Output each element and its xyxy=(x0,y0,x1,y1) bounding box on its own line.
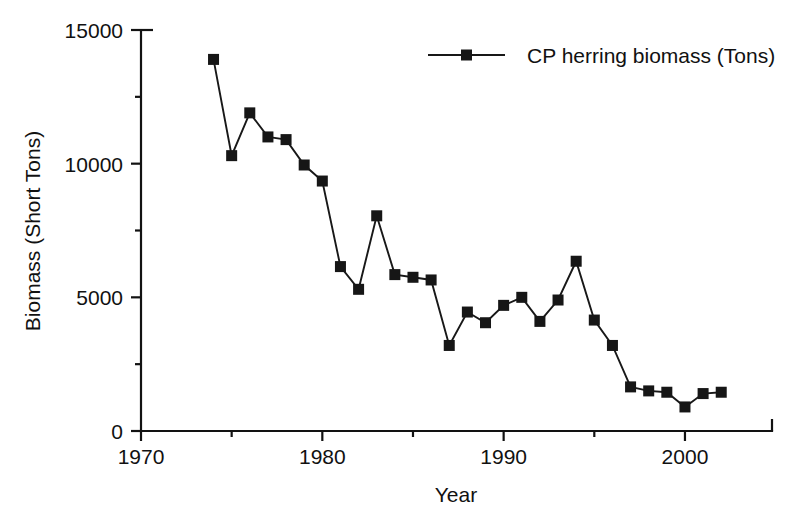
x-tick-label: 1970 xyxy=(118,445,165,468)
data-point-marker xyxy=(553,295,564,306)
data-point-marker xyxy=(317,176,328,187)
data-point-marker xyxy=(208,54,219,65)
data-point-marker xyxy=(498,300,509,311)
data-point-marker xyxy=(462,307,473,318)
legend-entry-label: CP herring biomass (Tons) xyxy=(527,44,775,67)
data-point-marker xyxy=(661,387,672,398)
legend-marker-square xyxy=(461,50,472,61)
y-tick-label: 5000 xyxy=(76,286,123,309)
y-axis-title: Biomass (Short Tons) xyxy=(21,131,44,331)
data-point-marker xyxy=(607,340,618,351)
data-point-marker xyxy=(407,272,418,283)
x-tick-label: 1980 xyxy=(299,445,346,468)
series-line-path xyxy=(214,59,722,407)
data-point-marker xyxy=(679,401,690,412)
data-point-marker xyxy=(262,131,273,142)
data-point-marker xyxy=(299,160,310,171)
data-point-marker xyxy=(444,340,455,351)
y-tick-label: 15000 xyxy=(65,19,123,42)
data-point-marker xyxy=(389,269,400,280)
y-axis-tick-labels: 050001000015000 xyxy=(65,19,123,443)
series-cp-herring-biomass xyxy=(208,54,727,413)
data-point-marker xyxy=(625,381,636,392)
data-point-marker xyxy=(589,315,600,326)
line-chart-canvas: 050001000015000 1970198019902000 Year Bi… xyxy=(0,0,801,520)
chart-legend: CP herring biomass (Tons) xyxy=(428,44,775,67)
data-point-marker xyxy=(353,284,364,295)
axis-lines xyxy=(141,30,772,431)
data-point-marker xyxy=(335,261,346,272)
data-point-marker xyxy=(534,316,545,327)
series-markers xyxy=(208,54,727,413)
data-point-marker xyxy=(426,274,437,285)
data-point-marker xyxy=(716,387,727,398)
chart-figure: 050001000015000 1970198019902000 Year Bi… xyxy=(0,0,801,520)
data-point-marker xyxy=(480,317,491,328)
data-point-marker xyxy=(571,256,582,267)
data-point-marker xyxy=(643,385,654,396)
y-tick-label: 0 xyxy=(111,420,123,443)
data-point-marker xyxy=(244,107,255,118)
data-point-marker xyxy=(281,134,292,145)
x-tick-label: 1990 xyxy=(480,445,527,468)
data-point-marker xyxy=(371,210,382,221)
y-tick-label: 10000 xyxy=(65,153,123,176)
data-point-marker xyxy=(226,150,237,161)
data-point-marker xyxy=(698,388,709,399)
x-tick-label: 2000 xyxy=(662,445,709,468)
x-axis-tick-labels: 1970198019902000 xyxy=(118,445,709,468)
x-axis-title: Year xyxy=(435,483,477,506)
data-point-marker xyxy=(516,292,527,303)
